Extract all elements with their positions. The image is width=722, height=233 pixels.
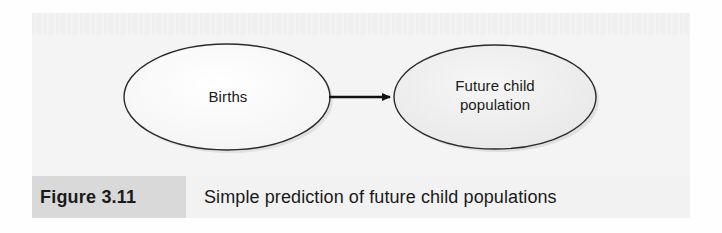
figure-number-block: Figure 3.11 xyxy=(32,176,186,218)
figure-number: Figure 3.11 xyxy=(40,187,136,208)
births-node-label: Births xyxy=(124,87,332,106)
figure-caption-bar: Figure 3.11 Simple prediction of future … xyxy=(32,176,690,218)
diagram-area: Births Future child population xyxy=(32,13,690,176)
future-child-population-node-label: Future child population xyxy=(395,76,595,114)
figure-root: Births Future child population Figure 3.… xyxy=(0,0,722,233)
figure-caption-text: Simple prediction of future child popula… xyxy=(186,187,557,208)
